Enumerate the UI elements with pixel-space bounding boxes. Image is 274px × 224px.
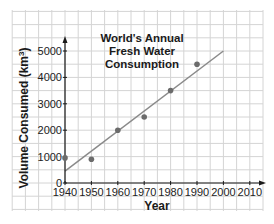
y-tick-label: 2000 <box>38 124 62 136</box>
x-tick-label: 1960 <box>106 186 130 198</box>
data-point <box>168 88 174 94</box>
x-tick-label: 1990 <box>185 186 209 198</box>
y-tick-label: 1000 <box>38 151 62 163</box>
chart-title-line-2: Fresh Water <box>109 45 176 57</box>
data-point <box>62 155 68 161</box>
chart-title: World's Annual Fresh Water Consumption <box>100 32 183 70</box>
x-tick-label: 1950 <box>79 186 103 198</box>
y-axis-label-end: ) <box>17 48 31 52</box>
x-tick-label: 2010 <box>238 186 262 198</box>
data-point <box>115 127 121 133</box>
water-consumption-chart: 19401950196019701980199020002010 0100020… <box>0 0 274 224</box>
x-tick-label: 2000 <box>211 186 235 198</box>
chart-title-line-3: Consumption <box>105 58 179 70</box>
data-point <box>194 61 200 67</box>
data-point <box>89 156 95 162</box>
y-tick-label: 4000 <box>38 71 62 83</box>
y-axis-label-main: Volume Consumed (km <box>17 56 31 188</box>
y-axis-arrow-icon <box>63 36 68 43</box>
x-tick-label: 1970 <box>132 186 156 198</box>
x-tick-label: 1980 <box>158 186 182 198</box>
x-axis-label: Year <box>144 199 170 213</box>
y-tick-label: 5000 <box>38 45 62 57</box>
y-axis-label: Volume Consumed (km3) <box>17 48 31 189</box>
data-point <box>141 114 147 120</box>
y-tick-label: 0 <box>56 177 62 189</box>
chart-title-line-1: World's Annual <box>100 32 183 44</box>
y-tick-label: 3000 <box>38 98 62 110</box>
